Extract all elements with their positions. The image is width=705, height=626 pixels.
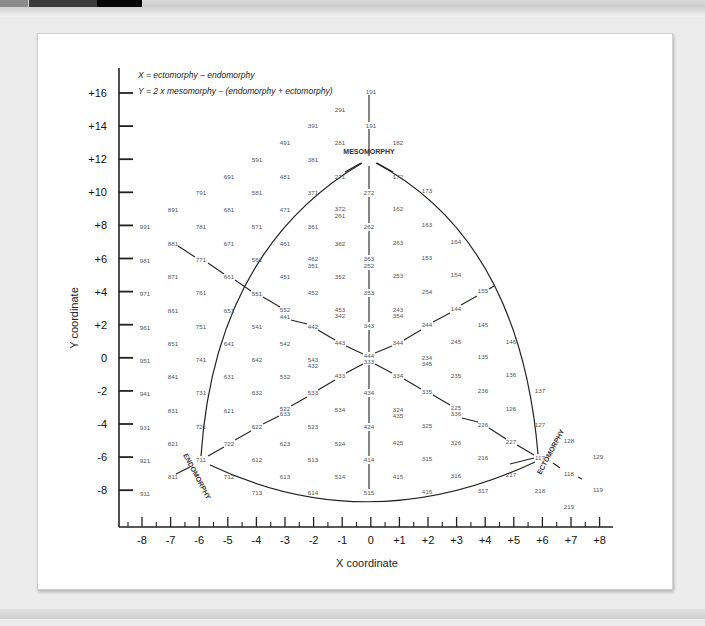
somatotype-label: 591 [252, 156, 263, 163]
somatotype-label: 721 [196, 423, 207, 430]
somatotype-label: 435 [393, 412, 404, 419]
somatotype-label: 135 [478, 353, 489, 360]
somatotype-label: 871 [168, 273, 179, 280]
somatotype-label: 821 [168, 440, 179, 447]
somatotype-label: 219 [564, 503, 575, 510]
somatotype-label: 731 [196, 389, 207, 396]
somatotype-label: 552 [280, 306, 291, 313]
somatotype-label: 119 [593, 486, 603, 493]
y-tick-label: +14 [88, 120, 107, 132]
somatotype-label: 514 [335, 473, 346, 480]
somatotype-label: 523 [308, 423, 319, 430]
somatotype-label: 711 [196, 456, 206, 463]
somatotype-label: 425 [393, 439, 404, 446]
somatotype-label: 326 [451, 439, 462, 446]
somatotype-label: 681 [224, 206, 235, 213]
somatotype-label: 343 [364, 322, 375, 329]
somatotype-label: 354 [393, 312, 404, 319]
somatotype-label: 451 [280, 273, 291, 280]
somatotype-label: 621 [224, 407, 235, 414]
y-ticks: +16+14+12+10+8+6+4+20-2-4-6-8 [88, 87, 133, 496]
somatotype-label: 841 [168, 373, 179, 380]
x-tick-label: -8 [137, 534, 147, 546]
somatotype-label: 651 [224, 307, 235, 314]
somatotype-label: 155 [478, 287, 489, 294]
somatotype-label: 145 [478, 321, 489, 328]
somatotype-label: 771 [196, 256, 207, 263]
somatotype-label: 281 [335, 139, 346, 146]
somatotype-label: 191 [366, 122, 377, 129]
somatotype-label: 722 [224, 440, 235, 447]
somatotype-label: 244 [422, 321, 433, 328]
somatotype-label: 253 [393, 272, 404, 279]
somatotype-label: 415 [393, 473, 404, 480]
somatotype-label: 443 [335, 339, 346, 346]
somatotype-label: 891 [168, 206, 179, 213]
somatotype-label: 921 [140, 457, 151, 464]
y-tick-label: -4 [97, 418, 107, 430]
somatotype-label: 381 [308, 156, 319, 163]
somatotype-label: 291 [335, 106, 346, 113]
y-tick-label: -6 [97, 451, 107, 463]
y-tick-label: -8 [97, 484, 107, 496]
y-tick-label: 0 [101, 352, 107, 364]
somatotype-label: 881 [168, 240, 179, 247]
somatotype-label: 345 [422, 360, 433, 367]
somatotype-label: 671 [224, 240, 235, 247]
somatotype-label: 434 [364, 389, 375, 396]
somatotype-label: 173 [422, 187, 433, 194]
somatotype-label: 371 [308, 189, 319, 196]
somatotype-label: 118 [564, 470, 574, 477]
y-axis-title: Y coordinate [68, 287, 80, 349]
somatotype-label: 216 [478, 454, 489, 461]
somatotype-label: 271 [335, 173, 346, 180]
x-tick-label: -6 [194, 534, 204, 546]
somatotype-label: 632 [252, 389, 263, 396]
somatotype-label: 623 [280, 440, 291, 447]
somatotype-label: 931 [140, 424, 151, 431]
somatotype-label: 751 [196, 323, 207, 330]
somatochart: X = ectomorphy – endomorphy Y = 2 x meso… [0, 0, 705, 626]
y-tick-label: +8 [94, 219, 107, 231]
somatotype-label: 363 [364, 255, 375, 262]
x-tick-label: +2 [422, 534, 435, 546]
y-tick-label: +10 [88, 186, 107, 198]
somatotype-label: 452 [308, 289, 319, 296]
somatotype-label: 781 [196, 223, 207, 230]
somatotype-label: 433 [335, 372, 346, 379]
somatotype-label: 533 [308, 389, 319, 396]
somatotype-label: 642 [252, 356, 263, 363]
somatotype-label: 261 [335, 212, 346, 219]
somatotype-label: 791 [196, 189, 207, 196]
formula-y: Y = 2 x mesomorphy – (endomorphy + ectom… [138, 86, 333, 96]
somatotype-label: 641 [224, 340, 235, 347]
somatotype-label: 163 [422, 221, 433, 228]
x-tick-label: -3 [280, 534, 290, 546]
somatotype-label: 316 [451, 472, 462, 479]
somatotype-label: 515 [364, 489, 375, 496]
somatotype-label: 334 [393, 372, 404, 379]
x-ticks: -8-7-6-5-4-3-2-10+1+2+3+4+5+6+7+8 [128, 517, 606, 546]
somatotype-label: 325 [422, 422, 433, 429]
y-tick-label: +6 [94, 253, 107, 265]
ectomorphy-label: ECTOMORPHY [536, 428, 566, 476]
somatotype-label: 182 [393, 139, 404, 146]
somatotype-label: 951 [140, 357, 151, 364]
somatotype-label: 712 [224, 473, 235, 480]
somatotype-label: 532 [280, 373, 291, 380]
somatotype-label: 361 [308, 223, 319, 230]
somatotype-label: 661 [224, 273, 235, 280]
somatotype-label: 218 [535, 487, 546, 494]
somatotype-label: 236 [478, 387, 489, 394]
x-tick-label: 0 [368, 534, 374, 546]
somatotype-label: 272 [364, 189, 375, 196]
somatotype-label: 961 [140, 324, 151, 331]
somatotype-label: 263 [393, 239, 404, 246]
somatotype-label: 154 [451, 271, 462, 278]
x-axis-title: X coordinate [336, 557, 398, 569]
somatotype-label: 245 [451, 338, 462, 345]
x-tick-label: -4 [252, 534, 262, 546]
somatotype-label: 542 [280, 340, 291, 347]
somatotype-label: 491 [280, 139, 291, 146]
somatotype-label: 353 [364, 289, 375, 296]
